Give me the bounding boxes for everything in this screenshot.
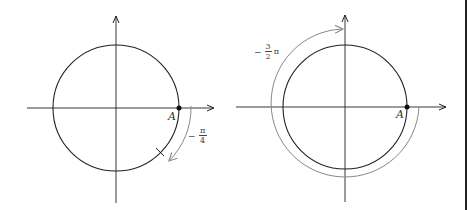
right-point-label: A: [396, 108, 404, 121]
angle-denominator: 4: [200, 136, 205, 145]
angle-sign: −: [254, 47, 262, 57]
left-angle-label: − π 4: [188, 126, 207, 145]
unit-circle-figures: [0, 0, 468, 210]
left-point-label: A: [168, 110, 176, 123]
angle-numerator: 3: [265, 42, 272, 51]
angle-fraction: 3 2: [265, 42, 272, 61]
angle-numerator: π: [199, 126, 206, 135]
point-a-dot: [405, 105, 410, 110]
angle-denominator: 2: [266, 52, 271, 61]
angle-fraction: π 4: [199, 126, 207, 145]
left-figure: [27, 16, 214, 203]
angle-suffix: π: [274, 47, 279, 56]
page-border-right: [465, 0, 467, 210]
angle-sign: −: [188, 131, 196, 141]
angle-tick-mark: [156, 148, 164, 156]
right-angle-label: − 3 2 π: [254, 42, 279, 61]
point-a-dot: [177, 106, 182, 111]
